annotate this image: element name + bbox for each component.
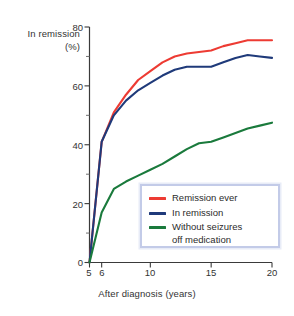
legend-item-without-seizures: Without seizures off medication <box>149 221 272 246</box>
plot-area <box>0 0 294 316</box>
legend-item-remission-ever: Remission ever <box>149 192 272 205</box>
legend-item-in-remission: In remission <box>149 207 272 220</box>
remission-line-chart: In remission (%) After diagnosis (years)… <box>0 0 294 316</box>
legend-label-without-seizures: Without seizures off medication <box>172 221 242 246</box>
legend-swatch-remission-ever <box>149 197 166 200</box>
chart-legend: Remission ever In remission Without seiz… <box>140 184 280 248</box>
x-axis-ticks <box>90 263 273 268</box>
legend-label-in-remission: In remission <box>172 207 223 220</box>
legend-label-without-seizures-line2: off medication <box>172 234 242 247</box>
legend-swatch-in-remission <box>149 212 166 215</box>
legend-label-remission-ever: Remission ever <box>172 192 237 205</box>
y-axis-ticks <box>85 27 90 263</box>
legend-swatch-without-seizures <box>149 226 166 229</box>
legend-label-without-seizures-line1: Without seizures <box>172 221 242 232</box>
